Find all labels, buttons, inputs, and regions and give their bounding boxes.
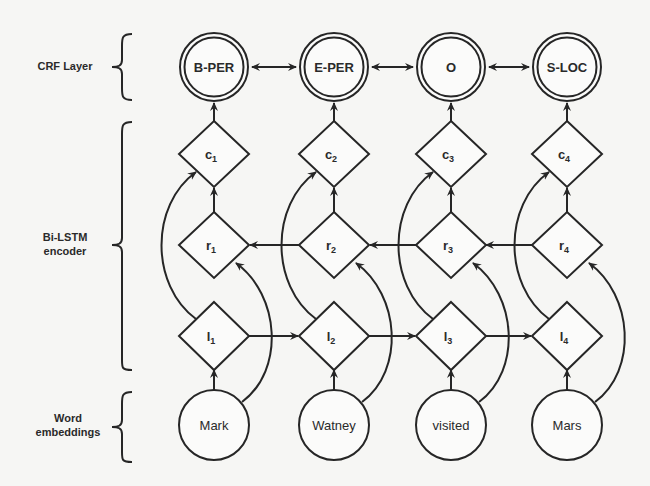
node-subscript: 3 xyxy=(448,245,453,255)
node-subscript: 3 xyxy=(447,336,452,346)
bilstm-label-group: Bi-LSTM encoder xyxy=(43,122,132,370)
bilstm-bracket xyxy=(112,122,132,370)
embeddings-label-line1: Word xyxy=(54,412,82,424)
right-lstm-node-4: r4 xyxy=(532,212,602,278)
word-node-4: Mars xyxy=(532,390,602,460)
crf-tag-node-3: O xyxy=(417,33,485,101)
crf-tag-label: E-PER xyxy=(314,60,354,75)
crf-tag-label: S-LOC xyxy=(547,60,588,75)
bilstm-label-line2: encoder xyxy=(44,245,88,257)
embeddings-label-line2: embeddings xyxy=(36,426,101,438)
left-lstm-node-3: l3 xyxy=(416,302,486,370)
word-node-2: Watney xyxy=(299,390,369,460)
crf-tag-label: O xyxy=(446,60,456,75)
node-subscript: 4 xyxy=(565,154,570,164)
embeddings-label-group: Word embeddings xyxy=(36,392,132,462)
node-subscript: 4 xyxy=(564,245,569,255)
word-label: Watney xyxy=(312,418,356,433)
left-lstm-node-1: l1 xyxy=(179,302,249,370)
bilstm-label-line1: Bi-LSTM xyxy=(43,231,88,243)
crf-tag-node-1: B-PER xyxy=(180,33,248,101)
word-node-3: visited xyxy=(416,390,486,460)
right-lstm-node-3: r3 xyxy=(416,212,486,278)
right-lstm-node-1: r1 xyxy=(179,212,249,278)
r-to-c-arrows xyxy=(214,188,567,212)
crf-layer-bracket xyxy=(112,34,132,100)
left-lstm-node-4: l4 xyxy=(532,302,602,370)
c-to-crf-arrows xyxy=(214,103,567,121)
word-to-l-arrows xyxy=(214,370,567,390)
node-subscript: 1 xyxy=(210,336,215,346)
node-subscript: 2 xyxy=(332,154,337,164)
word-label: visited xyxy=(433,418,470,433)
node-subscript: 1 xyxy=(211,245,216,255)
node-base: c xyxy=(442,147,449,162)
concat-nodes: c1 c2 c3 c4 xyxy=(179,121,602,187)
left-lstm-node-2: l2 xyxy=(299,302,369,370)
node-subscript: 1 xyxy=(212,154,217,164)
node-subscript: 2 xyxy=(330,336,335,346)
bilstm-crf-diagram: CRF Layer Bi-LSTM encoder Word embedding… xyxy=(0,0,650,486)
crf-tag-node-4: S-LOC xyxy=(533,33,601,101)
crf-layer-label-group: CRF Layer xyxy=(37,34,132,100)
word-label: Mark xyxy=(200,418,229,433)
node-subscript: 4 xyxy=(563,336,568,346)
crf-tag-label: B-PER xyxy=(194,60,235,75)
node-subscript: 3 xyxy=(449,154,454,164)
right-lstm-node-2: r2 xyxy=(299,212,369,278)
word-label: Mars xyxy=(553,418,582,433)
crf-tag-node-2: E-PER xyxy=(300,33,368,101)
node-base: c xyxy=(558,147,565,162)
node-subscript: 2 xyxy=(331,245,336,255)
embeddings-bracket xyxy=(112,392,132,462)
word-node-1: Mark xyxy=(179,390,249,460)
crf-layer-label: CRF Layer xyxy=(37,60,93,72)
node-base: c xyxy=(325,147,332,162)
node-base: c xyxy=(205,147,212,162)
